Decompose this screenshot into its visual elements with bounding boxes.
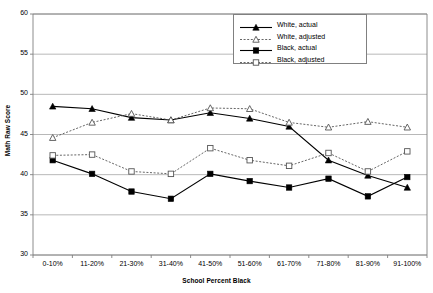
legend-entry[interactable]: White, adjusted xyxy=(238,31,325,42)
legend-entry[interactable]: White, actual xyxy=(238,19,317,30)
x-tick-label: 41-50% xyxy=(191,260,230,267)
axis-lines xyxy=(30,14,427,258)
legend-swatch-icon xyxy=(238,31,274,42)
x-tick-label: 21-30% xyxy=(112,260,151,267)
chart-legend: White, actualWhite, adjustedBlack, actua… xyxy=(233,14,367,64)
x-tick-label: 0-10% xyxy=(33,260,72,267)
x-tick-label: 11-20% xyxy=(72,260,111,267)
legend-swatch-icon xyxy=(238,42,274,53)
legend-swatch-icon xyxy=(238,54,274,65)
x-axis-title: School Percent Black xyxy=(0,277,433,284)
chart-container: Math Raw Score School Percent Black 6055… xyxy=(0,0,433,293)
legend-entry[interactable]: Black, actual xyxy=(238,42,317,53)
y-tick-label: 45 xyxy=(6,130,28,137)
y-tick-label: 50 xyxy=(6,89,28,96)
y-tick-label: 55 xyxy=(6,49,28,56)
legend-label: Black, adjusted xyxy=(277,56,324,63)
x-tick-label: 51-60% xyxy=(230,260,269,267)
y-tick-label: 35 xyxy=(6,210,28,217)
legend-label: Black, actual xyxy=(277,44,317,51)
x-tick-label: 81-90% xyxy=(348,260,387,267)
chart-plot-area xyxy=(0,0,433,293)
series-layer xyxy=(50,103,411,201)
legend-label: White, adjusted xyxy=(277,33,325,40)
x-tick-label: 61-70% xyxy=(269,260,308,267)
legend-label: White, actual xyxy=(277,21,317,28)
legend-entry[interactable]: Black, adjusted xyxy=(238,54,324,65)
gridlines xyxy=(33,14,427,255)
y-tick-label: 30 xyxy=(6,250,28,257)
x-tick-label: 31-40% xyxy=(151,260,190,267)
legend-swatch-icon xyxy=(238,19,274,30)
x-tick-label: 91-100% xyxy=(388,260,427,267)
y-tick-label: 40 xyxy=(6,170,28,177)
x-tick-label: 71-80% xyxy=(309,260,348,267)
y-tick-label: 60 xyxy=(6,9,28,16)
